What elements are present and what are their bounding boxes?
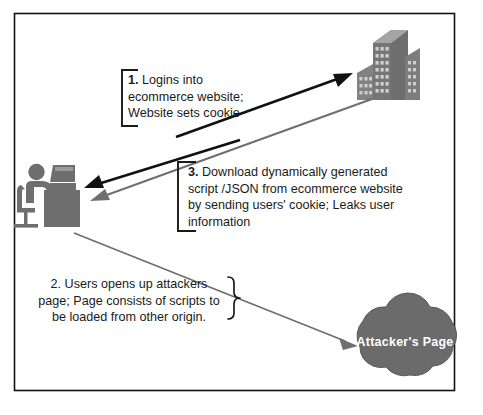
step-1-line-0-text: Logins into [142, 73, 203, 87]
step-2-line-2: be loaded from other origin. [34, 309, 224, 326]
step-1-line-1: ecommerce website; [128, 89, 243, 106]
step-2-line-0-text: Users opens up attackers [65, 277, 208, 291]
step-2-text: 2. Users opens up attackers page; Page c… [34, 276, 224, 326]
step-3-line-1: script /JSON from ecommerce website [188, 181, 403, 198]
step-2-line-0: 2. Users opens up attackers [34, 276, 224, 293]
step-1-number: 1. [128, 73, 139, 87]
step-1-line-2: Website sets cookie [128, 105, 243, 122]
step-1-line-0: 1. Logins into [128, 72, 243, 89]
step-3-number: 3. [188, 165, 199, 179]
step-3-line-3: information [188, 214, 403, 231]
step-3-text: 3. Download dynamically generated script… [188, 164, 403, 230]
step-2-line-1: page; Page consists of scripts to [34, 293, 224, 310]
step-3-line-0: 3. Download dynamically generated [188, 164, 403, 181]
diagram-canvas: 1. Logins into ecommerce website; Websit… [0, 0, 483, 415]
step-2-number: 2. [51, 277, 62, 291]
step-3-line-2: by sending users' cookie; Leaks user [188, 197, 403, 214]
step-1-text: 1. Logins into ecommerce website; Websit… [128, 72, 243, 122]
step-3-line-0-text: Download dynamically generated [202, 165, 388, 179]
